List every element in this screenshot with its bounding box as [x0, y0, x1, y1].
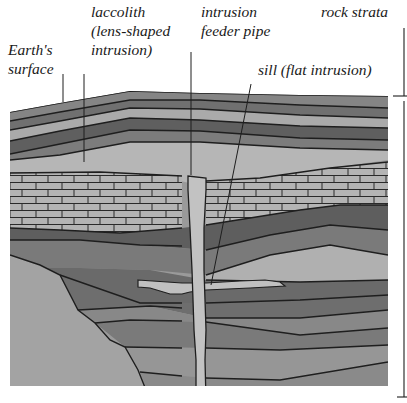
label-feeder-pipe: intrusion feeder pipe [201, 2, 270, 40]
limestone-left [10, 172, 182, 233]
label-earths-surface: Earth's surface [8, 40, 54, 78]
label-rock-strata: rock strata [321, 2, 388, 21]
label-laccolith: laccolith (lens-shaped intrusion) [91, 2, 170, 59]
label-sill: sill (flat intrusion) [258, 60, 372, 79]
rock-strata-bracket [393, 28, 407, 397]
